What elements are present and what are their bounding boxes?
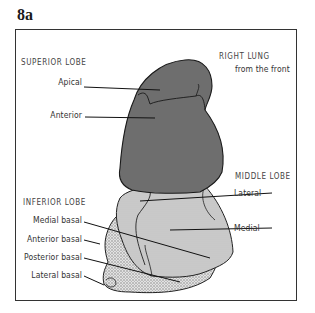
figure-subtitle: from the front	[235, 64, 290, 74]
middle-lobe-heading: MIDDLE LOBE	[235, 172, 291, 181]
label-anterior-basal: Anterior basal	[10, 234, 82, 244]
superior-lobe	[120, 60, 224, 194]
inferior-lobe-heading: INFERIOR LOBE	[23, 198, 86, 207]
label-anterior: Anterior	[30, 110, 82, 120]
label-medial: Medial	[234, 223, 260, 233]
right-lung-illustration	[0, 0, 315, 313]
label-posterior-basal: Posterior basal	[10, 252, 82, 262]
label-lateral: Lateral	[234, 188, 261, 198]
figure-title: RIGHT LUNG	[219, 52, 270, 61]
label-apical: Apical	[30, 77, 82, 87]
superior-lobe-heading: SUPERIOR LOBE	[21, 58, 86, 67]
middle-lobe	[116, 184, 233, 277]
label-medial-basal: Medial basal	[10, 215, 82, 225]
label-lateral-basal: Lateral basal	[10, 270, 82, 280]
